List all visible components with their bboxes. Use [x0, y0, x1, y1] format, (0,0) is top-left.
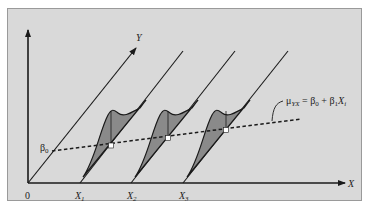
x1-label: X1	[74, 190, 85, 203]
intercept-label: β0	[40, 142, 49, 155]
regression-diagram: Y X 0 X1 X2 X3 β0 μYX = β0 + β1Xi	[0, 0, 377, 219]
regression-equation: μYX = β0 + β1Xi	[286, 95, 346, 108]
origin-label: 0	[25, 190, 30, 201]
mean-point-x1	[109, 143, 114, 148]
mean-point-x3	[224, 128, 229, 133]
x2-label: X2	[126, 190, 137, 203]
distribution-x3	[187, 100, 250, 177]
mean-point-x2	[166, 136, 171, 141]
equation-callout	[272, 101, 283, 121]
x3-label: X3	[178, 190, 189, 203]
x-axis-label: X	[347, 178, 355, 189]
distribution-x1	[83, 100, 146, 177]
y-axis-label: Y	[136, 32, 143, 43]
